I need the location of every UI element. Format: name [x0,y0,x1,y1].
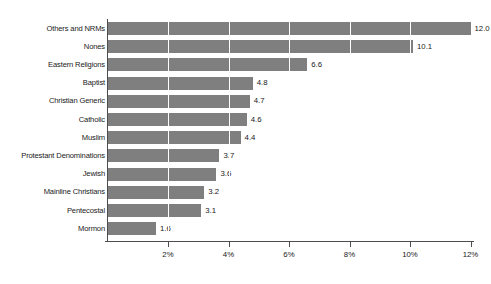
bar[interactable] [108,131,241,144]
bar[interactable] [108,204,202,217]
bar[interactable] [108,186,205,199]
bar-value-label: 3.1 [205,207,216,215]
x-axis-tick-mark [410,242,411,247]
x-axis-tick-label: 10% [402,250,418,259]
x-axis-tick-label: 2% [162,250,173,259]
gridline [289,21,290,240]
bar[interactable] [108,58,308,71]
gridline [229,21,230,240]
bar-value-label: 1.6 [160,225,171,233]
x-axis-tick-mark [229,242,230,247]
bar[interactable] [108,77,253,90]
bar[interactable] [108,222,156,235]
bar-value-label: 4.6 [251,116,262,124]
bar[interactable] [108,168,217,181]
x-axis-tick-mark [168,242,169,247]
x-axis-tick-mark [471,242,472,247]
gridline [471,21,472,240]
x-axis-tick-label: 4% [223,250,234,259]
bar[interactable] [108,113,247,126]
bar-value-label: 3.2 [208,188,219,196]
bar-value-label: 3.6 [220,170,231,178]
bar-value-label: 4.8 [257,79,268,87]
category-axis-line [107,19,108,241]
gridline [350,21,351,240]
bar-value-label: 12.0 [475,25,490,33]
x-axis-tick-mark [350,242,351,247]
bar-value-label: 6.6 [311,61,322,69]
bar-chart-plot-area: Others and NRMsNonesEastern ReligionsBap… [0,0,491,284]
x-axis-tick-label: 12% [463,250,479,259]
bar-value-label: 4.7 [254,97,265,105]
x-axis-tick-mark [289,242,290,247]
gridline [168,21,169,240]
gridline [410,21,411,240]
bar[interactable] [108,40,414,53]
x-axis-tick-label: 8% [344,250,355,259]
bar-value-label: 4.4 [245,134,256,142]
bar-value-label: 10.1 [417,43,432,51]
x-axis-tick-label: 6% [283,250,294,259]
bar[interactable] [108,149,220,162]
